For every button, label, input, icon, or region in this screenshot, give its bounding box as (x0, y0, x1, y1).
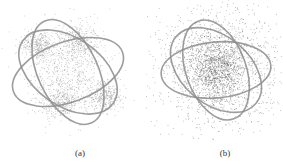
orbit-ring-2 (3, 13, 132, 132)
scatter-plot-b (146, 0, 283, 140)
scatter-panel-a (0, 0, 141, 140)
caption-a: (a) (75, 148, 85, 158)
caption-b: (b) (220, 148, 231, 158)
point-cloud (2, 8, 135, 136)
point-cloud (146, 0, 283, 140)
scatter-panel-b (146, 0, 283, 140)
orbit-ring-3 (17, 9, 119, 136)
scatter-plot-a (0, 0, 141, 140)
